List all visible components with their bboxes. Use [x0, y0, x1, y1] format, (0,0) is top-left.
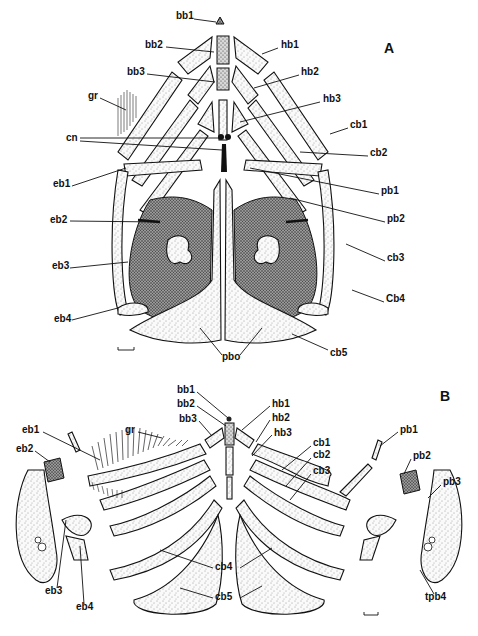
label-bb3: bb3 — [127, 67, 145, 77]
label-cb3: cb3 — [387, 253, 404, 263]
scale-bar-a — [118, 347, 134, 350]
label-eb2: eb2 — [50, 215, 67, 225]
label-eb4: eb4 — [54, 314, 71, 324]
label-cb2: cb2 — [313, 450, 330, 460]
label-eb4: eb4 — [76, 602, 93, 612]
panel-label-a: A — [384, 40, 394, 56]
panel-label-b: B — [440, 388, 450, 404]
label-cb5: cb5 — [330, 348, 347, 358]
label-bb2: bb2 — [145, 40, 163, 50]
label-eb3: eb3 — [52, 261, 69, 271]
branchial-skeleton-figure — [0, 0, 478, 636]
label-bb2: bb2 — [177, 399, 195, 409]
label-bb3: bb3 — [179, 414, 197, 424]
scale-bar-b — [364, 612, 378, 615]
label-gr: gr — [125, 425, 135, 435]
label-gr: gr — [88, 91, 98, 101]
label-cb4: cb4 — [215, 562, 232, 572]
label-hb2: hb2 — [272, 413, 290, 423]
label-eb2: eb2 — [16, 444, 33, 454]
label-pb3: pb3 — [443, 477, 461, 487]
label-cb4: Cb4 — [386, 294, 405, 304]
label-cb3: cb3 — [313, 466, 330, 476]
label-cb2: cb2 — [370, 148, 387, 158]
label-cb1: cb1 — [313, 438, 330, 448]
label-hb3: hb3 — [274, 428, 292, 438]
label-pb2: pb2 — [387, 214, 405, 224]
label-cb1: cb1 — [350, 120, 367, 130]
label-pb1: pb1 — [381, 186, 399, 196]
panel-b-drawing — [16, 392, 462, 615]
panel-a-drawing — [70, 17, 385, 355]
label-bb1: bb1 — [176, 11, 194, 21]
label-eb1: eb1 — [53, 179, 70, 189]
label-hb2: hb2 — [301, 67, 319, 77]
label-pb1: pb1 — [400, 425, 418, 435]
label-tpb4: tpb4 — [425, 592, 446, 602]
label-hb3: hb3 — [323, 94, 341, 104]
label-hb1: hb1 — [272, 399, 290, 409]
label-cn: cn — [66, 133, 78, 143]
label-eb3: eb3 — [45, 586, 62, 596]
label-eb1: eb1 — [22, 425, 39, 435]
label-pb2: pb2 — [413, 451, 431, 461]
label-pbo: pbo — [222, 352, 240, 362]
label-bb1: bb1 — [177, 385, 195, 395]
label-hb1: hb1 — [281, 40, 299, 50]
label-cb5: cb5 — [215, 592, 232, 602]
